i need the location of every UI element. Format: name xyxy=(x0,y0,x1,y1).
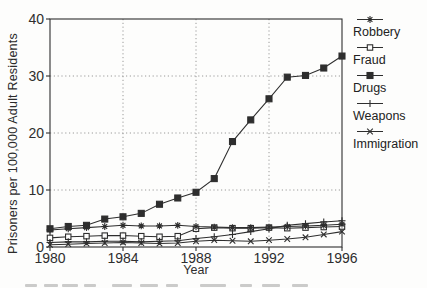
filled-square-marker xyxy=(321,65,327,71)
y-tick-label: 10 xyxy=(28,182,44,198)
asterisk-marker xyxy=(284,223,291,230)
open-square-marker xyxy=(367,45,372,50)
legend-item-label: Robbery xyxy=(353,26,427,39)
filled-square-marker xyxy=(138,210,144,216)
y-tick-label: 30 xyxy=(28,68,44,84)
legend-item-label: Drugs xyxy=(353,82,427,95)
y-tick-label: 0 xyxy=(36,239,44,255)
asterisk-marker xyxy=(101,223,108,230)
line-chart-figure: 19801984198819921996010203040Year Prison… xyxy=(0,0,427,288)
asterisk-marker xyxy=(320,222,327,229)
filled-square-marker xyxy=(65,223,71,229)
filled-square-marker xyxy=(193,189,199,195)
x-axis-title: Year xyxy=(183,263,208,277)
legend-item-label: Immigration xyxy=(353,138,427,151)
asterisk-marker xyxy=(156,223,163,230)
asterisk-marker xyxy=(266,224,273,231)
legend-item-fraud: Fraud xyxy=(353,41,427,67)
legend-item-label: Fraud xyxy=(353,54,427,67)
legend: Robbery Fraud Drugs Weapons Immigration xyxy=(353,13,427,153)
filled-square-marker xyxy=(157,201,163,207)
open-square-marker xyxy=(84,233,89,238)
filled-square-marker xyxy=(120,214,126,220)
y-tick-label: 20 xyxy=(28,125,44,141)
filled-square-marker xyxy=(84,222,90,228)
legend-item-weapons: Weapons xyxy=(353,97,427,123)
asterisk-marker xyxy=(367,16,374,23)
filled-square-marker xyxy=(248,117,254,123)
legend-item-label: Weapons xyxy=(353,110,427,123)
cropped-caption-remnant xyxy=(0,284,427,288)
asterisk-marker xyxy=(120,222,127,229)
filled-square-marker xyxy=(303,72,309,78)
open-square-marker xyxy=(102,233,107,238)
filled-square-marker xyxy=(266,96,272,102)
open-square-marker xyxy=(120,233,125,238)
filled-square-marker xyxy=(175,195,181,201)
plus-marker xyxy=(229,231,236,238)
filled-square-marker xyxy=(102,216,108,222)
y-axis-title: Prisoners per 100,000 Adult Residents xyxy=(6,23,23,265)
filled-square-marker xyxy=(230,139,236,145)
x-tick-label: 1996 xyxy=(326,250,357,266)
filled-square-marker xyxy=(339,53,345,59)
plus-marker xyxy=(120,238,127,245)
asterisk-marker xyxy=(339,221,346,228)
legend-item-robbery: Robbery xyxy=(353,13,427,39)
series-line xyxy=(50,56,342,229)
asterisk-marker xyxy=(229,224,236,231)
asterisk-marker xyxy=(302,223,309,230)
filled-square-marker xyxy=(211,176,217,182)
filled-square-marker xyxy=(284,74,290,80)
asterisk-marker xyxy=(211,224,218,231)
x-tick-label: 1984 xyxy=(107,250,138,266)
asterisk-marker xyxy=(174,222,181,229)
legend-item-drugs: Drugs xyxy=(353,69,427,95)
plus-marker xyxy=(367,100,374,107)
asterisk-marker xyxy=(193,223,200,230)
asterisk-marker xyxy=(247,224,254,231)
legend-item-immigration: Immigration xyxy=(353,125,427,151)
filled-square-marker xyxy=(367,73,373,79)
x-tick-label: 1992 xyxy=(253,250,284,266)
asterisk-marker xyxy=(138,223,145,230)
filled-square-marker xyxy=(47,226,53,232)
plus-marker xyxy=(211,233,218,240)
y-tick-label: 40 xyxy=(28,11,44,27)
open-square-marker xyxy=(139,233,144,238)
